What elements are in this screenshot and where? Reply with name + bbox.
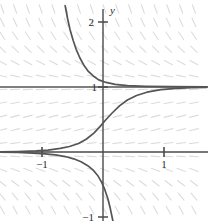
slope-mark: [51, 32, 56, 39]
slope-mark: [11, 143, 20, 144]
slope-field-figure: yt−11−112: [0, 0, 208, 221]
slope-mark: [190, 129, 199, 131]
slope-mark: [140, 32, 145, 39]
slope-mark: [177, 60, 185, 64]
slope-mark: [74, 156, 83, 157]
slope-mark: [139, 60, 147, 64]
slope-mark: [164, 60, 172, 64]
slope-mark: [101, 60, 109, 64]
y-tick-label-2: 2: [89, 16, 95, 28]
slope-mark: [151, 156, 160, 157]
slope-mark: [0, 115, 7, 117]
slope-mark: [190, 181, 197, 186]
slope-mark: [177, 102, 186, 104]
slope-mark: [192, 18, 196, 26]
slope-mark: [75, 168, 83, 171]
slope-mark: [0, 75, 7, 77]
slope-mark: [179, 18, 183, 26]
slope-mark: [12, 193, 18, 200]
slope-mark: [0, 156, 7, 157]
slope-mark: [23, 143, 32, 144]
slope-mark: [126, 143, 135, 144]
slope-mark: [51, 193, 57, 200]
slope-mark: [113, 115, 122, 117]
slope-mark: [38, 193, 44, 200]
slope-mark: [87, 115, 96, 117]
slope-mark: [167, 5, 170, 13]
slope-mark: [52, 18, 56, 26]
slope-mark: [64, 206, 68, 214]
slope-mark: [50, 46, 56, 52]
slope-mark: [180, 5, 183, 13]
slope-mark: [0, 102, 7, 104]
slope-mark: [0, 143, 7, 144]
slope-mark: [36, 115, 45, 117]
slope-mark: [24, 129, 33, 131]
slope-mark: [49, 115, 58, 117]
slope-mark: [13, 18, 17, 26]
slope-mark: [64, 32, 69, 39]
slope-mark: [166, 32, 171, 39]
slope-mark: [90, 5, 93, 13]
slope-mark: [164, 115, 173, 117]
y-tick-label-1: 1: [92, 81, 98, 93]
slope-mark: [87, 143, 96, 144]
slope-mark: [126, 75, 135, 77]
y-axis-label: y: [109, 4, 115, 16]
slope-mark: [89, 193, 95, 200]
slope-mark: [154, 18, 158, 26]
slope-mark: [128, 206, 132, 214]
slope-mark: [0, 168, 7, 171]
slope-mark: [177, 115, 186, 117]
slope-mark: [24, 168, 32, 171]
slope-mark: [36, 143, 45, 144]
slope-mark: [126, 156, 135, 157]
slope-mark: [164, 143, 173, 144]
slope-mark: [100, 102, 109, 104]
slope-mark: [116, 5, 119, 13]
slope-mark: [113, 143, 122, 144]
slope-mark: [38, 206, 42, 214]
slope-mark: [152, 60, 160, 64]
slope-mark: [115, 32, 120, 39]
slope-mark: [129, 5, 132, 13]
slope-mark: [76, 32, 81, 39]
slope-mark: [177, 75, 186, 77]
slope-mark: [0, 46, 6, 52]
slope-mark: [140, 46, 146, 52]
slope-mark: [0, 181, 6, 186]
slope-mark: [126, 60, 134, 64]
slope-mark: [75, 115, 84, 117]
slope-mark: [114, 181, 121, 186]
slope-mark: [11, 102, 20, 104]
slope-mark: [154, 5, 157, 13]
slope-mark: [191, 46, 197, 52]
slope-mark: [49, 129, 58, 131]
slope-mark: [126, 102, 135, 104]
slope-mark: [26, 206, 30, 214]
slope-mark: [192, 206, 196, 214]
slope-mark: [113, 168, 121, 171]
slope-mark: [179, 32, 184, 39]
slope-mark: [177, 156, 186, 157]
slope-mark: [113, 156, 122, 157]
slope-mark: [151, 102, 160, 104]
slope-mark: [11, 60, 19, 64]
slope-mark: [0, 129, 7, 131]
slope-mark: [151, 75, 160, 77]
slope-mark: [165, 181, 172, 186]
slope-mark: [178, 181, 185, 186]
slope-mark: [192, 5, 195, 13]
slope-mark: [38, 32, 43, 39]
slope-mark: [88, 181, 95, 186]
slope-mark: [113, 60, 121, 64]
slope-mark: [190, 102, 199, 104]
slope-mark: [100, 129, 109, 131]
slope-mark: [138, 156, 147, 157]
slope-mark: [114, 46, 120, 52]
slope-mark: [1, 5, 4, 13]
slope-mark: [138, 129, 147, 131]
slope-mark: [151, 129, 160, 131]
slope-mark: [49, 143, 58, 144]
slope-mark: [11, 156, 20, 157]
